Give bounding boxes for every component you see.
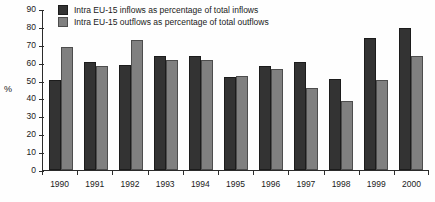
plot-area (42, 10, 429, 171)
bar-group-1997 (289, 10, 324, 170)
bar-group-1992 (113, 10, 148, 170)
x-axis-label-1995: 1995 (218, 179, 253, 189)
bar-outflows-1992 (131, 40, 143, 170)
bar-inflows-1996 (259, 66, 271, 170)
bar-inflows-1995 (224, 77, 236, 170)
bar-group-1993 (148, 10, 183, 170)
x-axis-label-1999: 1999 (359, 179, 394, 189)
bar-inflows-1993 (154, 56, 166, 170)
x-tick-slot-1993 (148, 171, 183, 177)
bar-outflows-1995 (236, 76, 248, 170)
bar-group-1995 (218, 10, 253, 170)
y-tick-label: 20 (27, 129, 36, 139)
bar-outflows-1994 (201, 60, 213, 170)
y-tick-label: 40 (27, 93, 36, 103)
x-axis-label-1997: 1997 (288, 179, 323, 189)
bar-group-1996 (254, 10, 289, 170)
x-axis-label-2000: 2000 (394, 179, 429, 189)
x-tick-slot-1998 (324, 171, 359, 177)
x-tick-mark-end (428, 171, 429, 175)
x-axis-label-1991: 1991 (77, 179, 112, 189)
bar-group-1999 (359, 10, 394, 170)
x-tick-slot-1997 (288, 171, 323, 177)
y-tick-label: 70 (27, 40, 36, 50)
y-tick-label: 10 (27, 147, 36, 157)
y-axis-ticks: 9080706050403020100 (0, 0, 45, 202)
y-tick-label: 0 (31, 165, 36, 175)
x-tick-mark (218, 171, 219, 175)
x-axis-label-1990: 1990 (42, 179, 77, 189)
x-tick-mark (112, 171, 113, 175)
bar-group-1991 (78, 10, 113, 170)
x-tick-slot-1991 (77, 171, 112, 177)
bar-inflows-1990 (49, 80, 61, 170)
x-tick-mark (183, 171, 184, 175)
bar-outflows-2000 (411, 56, 423, 170)
y-tick-label: 50 (27, 76, 36, 86)
bar-outflows-1999 (376, 80, 388, 170)
x-tick-slot-1994 (183, 171, 218, 177)
x-tick-mark (42, 171, 43, 175)
x-tick-mark (288, 171, 289, 175)
x-tick-mark (394, 171, 395, 175)
bar-chart: % 9080706050403020100 Intra EU-15 inflow… (0, 0, 435, 202)
bar-outflows-1996 (271, 69, 283, 170)
x-tick-slot-1992 (112, 171, 147, 177)
x-tick-slot-1990 (42, 171, 77, 177)
bar-inflows-1998 (329, 79, 341, 170)
bar-group-1994 (183, 10, 218, 170)
x-axis-label-1998: 1998 (324, 179, 359, 189)
bar-group-2000 (394, 10, 429, 170)
bar-inflows-1994 (189, 56, 201, 170)
x-tick-slot-2000 (394, 171, 429, 177)
x-axis-ticks (42, 171, 429, 177)
bar-inflows-1999 (364, 38, 376, 170)
bar-inflows-2000 (399, 28, 411, 170)
bar-inflows-1991 (84, 62, 96, 170)
y-tick-label: 30 (27, 111, 36, 121)
x-tick-slot-1999 (359, 171, 394, 177)
bar-inflows-1997 (294, 62, 306, 170)
x-axis-label-1994: 1994 (183, 179, 218, 189)
x-axis-labels: 1990199119921993199419951996199719981999… (42, 179, 429, 189)
x-tick-mark (148, 171, 149, 175)
x-axis-label-1996: 1996 (253, 179, 288, 189)
x-tick-mark (359, 171, 360, 175)
x-tick-slot-1995 (218, 171, 253, 177)
y-tick-label: 80 (27, 22, 36, 32)
x-tick-slot-1996 (253, 171, 288, 177)
bar-inflows-1992 (119, 65, 131, 170)
bar-outflows-1997 (306, 88, 318, 170)
bars-layer (43, 10, 429, 170)
bar-group-1990 (43, 10, 78, 170)
bar-outflows-1993 (166, 60, 178, 170)
x-tick-mark (324, 171, 325, 175)
bar-outflows-1990 (61, 47, 73, 170)
bar-group-1998 (324, 10, 359, 170)
bar-outflows-1998 (341, 101, 353, 170)
y-tick-label: 90 (27, 4, 36, 14)
x-axis-label-1992: 1992 (112, 179, 147, 189)
y-tick-label: 60 (27, 58, 36, 68)
x-axis-label-1993: 1993 (148, 179, 183, 189)
x-tick-mark (77, 171, 78, 175)
x-tick-mark (253, 171, 254, 175)
bar-outflows-1991 (96, 66, 108, 170)
